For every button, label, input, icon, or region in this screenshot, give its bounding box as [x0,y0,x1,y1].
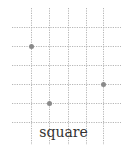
grid-point [47,101,52,106]
grid-point [101,82,106,87]
grid-point [29,44,34,49]
data-points [29,44,106,106]
diagram-caption: square [0,124,127,140]
horizontal-grid-lines [12,28,121,123]
